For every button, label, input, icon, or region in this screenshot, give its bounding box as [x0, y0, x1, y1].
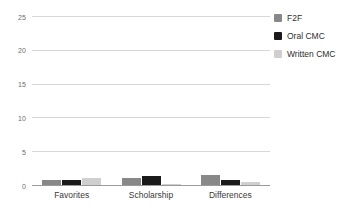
bar-favorites-f2f[interactable]	[42, 180, 61, 185]
legend-swatch-icon	[274, 32, 282, 40]
legend-item-oral-cmc[interactable]: Oral CMC	[274, 28, 358, 43]
bar-differences-oral-cmc[interactable]	[221, 180, 240, 185]
legend-label: F2F	[287, 13, 302, 23]
legend-swatch-icon	[274, 14, 282, 22]
x-tick-label-differences: Differences	[191, 190, 270, 201]
x-tick-label-favorites: Favorites	[32, 190, 111, 201]
plot-area	[32, 17, 270, 186]
x-axis: FavoritesScholarshipDifferences	[32, 190, 270, 206]
bar-scholarship-written-cmc[interactable]	[162, 184, 181, 185]
legend-swatch-icon	[274, 50, 282, 58]
y-tick-label-15: 15	[18, 81, 26, 88]
legend-item-f2f[interactable]: F2F	[274, 10, 358, 25]
bar-differences-written-cmc[interactable]	[241, 182, 260, 185]
y-tick-label-10: 10	[18, 115, 26, 122]
y-tick-label-0: 0	[22, 183, 26, 190]
y-axis: 0510152025	[0, 0, 30, 217]
bar-group-scholarship	[122, 17, 181, 186]
bar-chart: 0510152025 FavoritesScholarshipDifferenc…	[0, 0, 359, 217]
legend-label: Oral CMC	[287, 31, 325, 41]
y-tick-label-5: 5	[22, 149, 26, 156]
legend-item-written-cmc[interactable]: Written CMC	[274, 46, 358, 61]
bar-group-differences	[201, 17, 260, 186]
legend-label: Written CMC	[287, 49, 336, 59]
bar-favorites-oral-cmc[interactable]	[62, 180, 81, 185]
bar-differences-f2f[interactable]	[201, 175, 220, 185]
bar-scholarship-f2f[interactable]	[122, 178, 141, 185]
y-tick-label-25: 25	[18, 14, 26, 21]
bar-favorites-written-cmc[interactable]	[82, 178, 101, 185]
x-tick-label-scholarship: Scholarship	[111, 190, 190, 201]
chart-legend: F2FOral CMCWritten CMC	[274, 10, 358, 64]
y-tick-label-20: 20	[18, 47, 26, 54]
bar-group-favorites	[42, 17, 101, 186]
bar-scholarship-oral-cmc[interactable]	[142, 176, 161, 185]
